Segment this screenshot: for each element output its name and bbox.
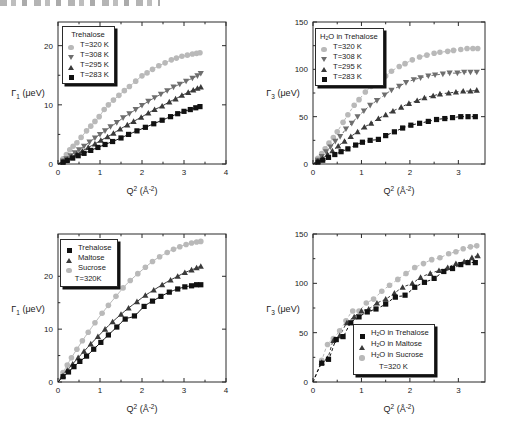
square-data-point — [422, 280, 427, 285]
square-data-point — [118, 135, 123, 140]
x-tick-label: 1 — [359, 168, 364, 177]
circle-data-point — [379, 288, 385, 294]
square-data-point — [151, 121, 156, 126]
down-triangle-marker-icon — [320, 52, 328, 62]
square-data-point — [434, 117, 439, 122]
x-tick-label: 0 — [311, 168, 316, 177]
square-data-point — [345, 146, 350, 151]
circle-data-point — [135, 271, 141, 277]
square-data-point — [353, 142, 358, 147]
circle-data-point — [96, 114, 102, 120]
panel-top-left: 0123401020Q2 (Å-2)Γ1 (μeV) Trehalose T=3… — [0, 8, 258, 213]
legend-label: Maltose — [78, 253, 105, 263]
circle-data-point — [417, 54, 423, 60]
y-axis-title: Γ1 (μeV) — [11, 88, 44, 100]
legend-label: H2O in Trehalose — [371, 328, 429, 339]
legend-bottom-right: H2O in Trehalose H2O in Maltose H2O in S… — [353, 324, 435, 375]
legend-label: T=320 K — [333, 42, 362, 52]
panel-bottom-right: 0123050100150Q2 (Å-2)Γ3 (μeV) H2O in Tre… — [257, 222, 515, 432]
circle-data-point — [92, 320, 98, 326]
circle-data-point — [169, 57, 175, 63]
x-tick-label: 1 — [359, 386, 364, 395]
square-data-point — [65, 158, 70, 163]
circle-data-point — [468, 244, 474, 250]
circle-data-point — [179, 54, 185, 60]
x-tick-label: 3 — [456, 168, 461, 177]
legend-label: Sucrose — [78, 263, 106, 273]
square-data-point — [132, 313, 137, 318]
x-axis-title: Q2 (Å-2) — [127, 185, 158, 196]
circle-data-point — [174, 55, 180, 61]
square-data-point — [365, 309, 370, 314]
circle-data-point — [116, 93, 122, 99]
x-tick-label: 2 — [140, 168, 145, 177]
square-marker-icon — [358, 329, 366, 339]
square-data-point — [134, 128, 139, 133]
legend-label: T=308 K — [80, 50, 109, 60]
circle-data-point — [80, 338, 86, 344]
square-data-point — [450, 266, 455, 271]
panel-top-right: 0123050100150Q2 (Å-2)Γ3 (μeV) H2O in Tre… — [257, 8, 515, 213]
circle-data-point — [356, 97, 362, 103]
legend-label: T=295 K — [333, 62, 362, 72]
x-tick-label: 2 — [140, 386, 145, 395]
square-data-point — [198, 282, 203, 287]
circle-data-point — [437, 255, 443, 261]
circle-data-point — [127, 84, 133, 90]
square-data-point — [143, 125, 148, 130]
square-data-point — [412, 285, 417, 290]
square-marker-icon — [67, 70, 75, 80]
y-tick-label: 50 — [299, 113, 308, 122]
circle-data-point — [164, 250, 170, 256]
circle-data-point — [474, 243, 480, 249]
square-data-point — [339, 149, 344, 154]
y-tick-label: 0 — [304, 378, 309, 387]
circle-data-point — [144, 70, 150, 76]
circle-marker-icon — [65, 263, 73, 273]
square-data-point — [88, 148, 93, 153]
legend-top-right: H2O in Trehalose T=320 K T=308 K T=295 K… — [315, 28, 384, 86]
square-data-point — [76, 153, 81, 158]
square-data-point — [197, 104, 202, 109]
square-data-point — [81, 151, 86, 156]
square-data-point — [167, 290, 172, 295]
x-tick-label: 1 — [98, 386, 103, 395]
circle-data-point — [162, 60, 168, 66]
x-axis-title: Q2 (Å-2) — [384, 185, 415, 196]
square-data-point — [432, 276, 437, 281]
square-data-point — [426, 119, 431, 124]
x-tick-label: 3 — [456, 386, 461, 395]
circle-data-point — [396, 64, 402, 70]
y-tick-label: 10 — [44, 101, 53, 110]
circle-data-point — [412, 265, 418, 271]
square-data-point — [70, 155, 75, 160]
circle-data-point — [156, 63, 162, 69]
x-tick-label: 0 — [56, 386, 61, 395]
legend-row: Maltose — [65, 253, 112, 263]
y-tick-label: 20 — [44, 272, 53, 281]
circle-data-point — [395, 277, 401, 283]
square-data-point — [442, 116, 447, 121]
x-tick-label: 4 — [224, 386, 229, 395]
circle-data-point — [120, 285, 126, 291]
legend-row: T=320 K — [320, 42, 378, 52]
square-data-point — [91, 347, 96, 352]
square-data-point — [158, 294, 163, 299]
circle-marker-icon — [320, 42, 328, 52]
square-data-point — [71, 364, 76, 369]
legend-row: Sucrose — [65, 263, 112, 273]
square-data-point — [356, 314, 361, 319]
y-axis-title: Γ1 (μeV) — [11, 304, 44, 316]
square-data-point — [114, 324, 119, 329]
x-tick-label: 1 — [98, 168, 103, 177]
y-tick-label: 100 — [295, 65, 309, 74]
legend-footer: T=320K — [65, 274, 112, 283]
circle-data-point — [177, 244, 183, 250]
legend-row: T=283 K — [67, 70, 109, 80]
square-data-point — [360, 140, 365, 145]
circle-data-point — [84, 128, 90, 134]
plot-bottom-left: 0123401020Q2 (Å-2)Γ1 (μeV) — [0, 222, 258, 432]
circle-data-point — [446, 251, 452, 257]
square-data-point — [376, 137, 381, 142]
circle-data-point — [150, 259, 156, 265]
